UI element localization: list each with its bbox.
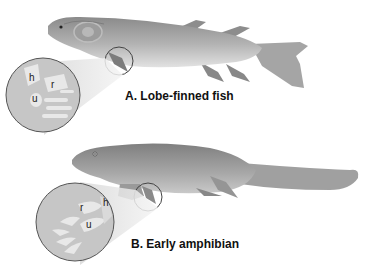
evolution-figure: h r u [0, 0, 373, 271]
label-humerus: h [29, 72, 35, 83]
caption-lobe-finned-fish: A. Lobe-finned fish [125, 89, 234, 103]
label-ulna: u [32, 93, 38, 104]
figure-illustration: h r u [0, 0, 373, 271]
amphibian-limb-bone-inset: r h u [36, 183, 114, 261]
label-ulna: u [86, 219, 92, 230]
fish-fin-bone-inset: h r u [6, 58, 80, 132]
lobe-finned-fish: h r u [6, 17, 308, 135]
label-humerus: h [103, 197, 109, 208]
caption-early-amphibian: B. Early amphibian [131, 237, 239, 251]
